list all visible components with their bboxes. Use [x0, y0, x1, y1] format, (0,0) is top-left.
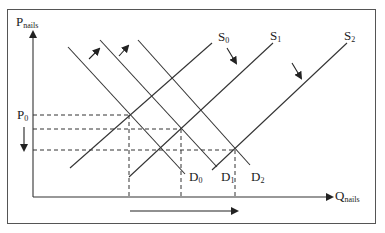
supply-curve-s1 [129, 43, 273, 177]
demand-label-d0: D0 [189, 170, 202, 185]
x-axis-label: Qnails [335, 189, 360, 204]
demand-shift-arrow-icon [119, 46, 128, 56]
supply-label-s0: S0 [218, 30, 229, 45]
supply-label-s1: S1 [270, 29, 281, 44]
demand-label-d2: D2 [251, 170, 264, 185]
supply-shift-arrow-icon [292, 63, 301, 78]
demand-label-d1: D1 [221, 170, 234, 185]
supply-curve-s0 [70, 43, 212, 168]
y-axis-label: Pnails [16, 15, 38, 30]
supply-label-s2: S2 [344, 29, 355, 44]
demand-curve-d1 [100, 40, 217, 167]
supply-shift-arrow-icon [227, 48, 236, 63]
supply-demand-diagram [0, 0, 385, 233]
price-p0-label: P0 [17, 108, 28, 123]
supply-curve-s2 [212, 43, 347, 170]
demand-shift-arrow-icon [89, 49, 99, 59]
